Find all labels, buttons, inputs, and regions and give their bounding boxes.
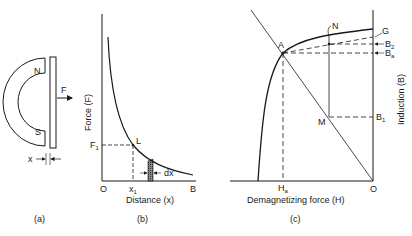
magnet-diagram: F N S x (a) dx L F1 O x1 B Distance (x) … <box>0 0 412 236</box>
dx-strip <box>148 159 153 181</box>
x-axis-title-b: Distance (x) <box>126 195 174 205</box>
f1-subscript: 1 <box>96 145 100 151</box>
dx-label: dx <box>164 168 174 178</box>
x-axis-title-c: Demagnetizing force (H) <box>247 195 345 205</box>
g-label: G <box>382 26 389 36</box>
point-m-label: M <box>318 117 326 127</box>
svg-text:x1: x1 <box>129 184 138 195</box>
ha-subscript: a <box>285 188 289 194</box>
y-axis-title-b: Force (F) <box>83 94 93 131</box>
point-l-marker <box>132 144 135 147</box>
armature-bar <box>50 57 56 148</box>
caption-c: (c) <box>290 214 301 224</box>
force-distance-curve <box>108 37 193 175</box>
point-a-label: A <box>278 40 284 50</box>
ba-subscript: a <box>391 53 395 59</box>
origin-label-c: O <box>370 184 377 194</box>
panel-b: dx L F1 O x1 B Distance (x) Force (F) (b… <box>83 14 196 224</box>
caption-a: (a) <box>34 214 45 224</box>
north-pole-label: N <box>34 66 41 76</box>
b2-subscript: 2 <box>391 44 395 50</box>
panel-c: A N M G B2 Ba B1 Ha O Demagnetizing forc… <box>230 10 406 224</box>
force-label: F <box>61 85 67 95</box>
south-pole-label: S <box>35 127 41 137</box>
point-n-label: N <box>332 21 339 31</box>
g-pointer <box>375 33 382 37</box>
gap-label: x <box>28 154 33 164</box>
point-b2-marker <box>328 43 331 46</box>
x-end-label-b: B <box>190 184 196 194</box>
y-axis-title-c: Induction (B) <box>396 74 406 125</box>
point-l-label: L <box>136 136 141 146</box>
caption-b: (b) <box>137 214 148 224</box>
svg-text:F1: F1 <box>90 140 100 151</box>
demagnetization-curve <box>258 29 373 181</box>
point-a-marker <box>282 52 285 55</box>
load-line <box>251 10 373 181</box>
panel-a: F N S x (a) <box>3 57 72 224</box>
svg-text:B1: B1 <box>376 112 386 123</box>
origin-label-b: O <box>100 184 107 194</box>
svg-text:Ha: Ha <box>278 183 289 194</box>
b1-subscript: 1 <box>382 117 386 123</box>
